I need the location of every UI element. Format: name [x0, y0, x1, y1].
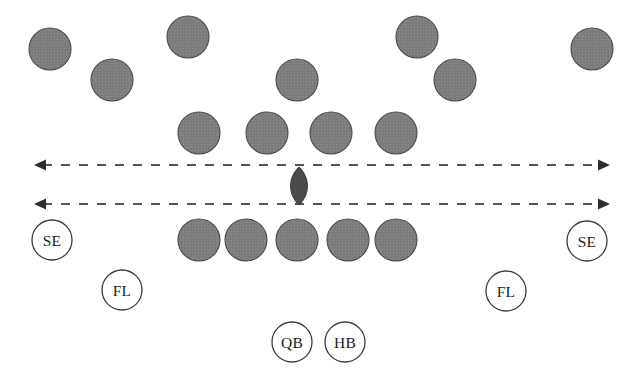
flanker-right-label: FL	[497, 283, 516, 300]
offensive-line-group	[178, 219, 417, 261]
defender-middle-backer	[276, 59, 318, 101]
defender-left-corner	[29, 28, 71, 70]
lower-neutral-zone-line	[34, 199, 610, 210]
offensive-lineman-left-guard	[225, 219, 267, 261]
defensive-lineman-1	[178, 112, 220, 154]
upper-neutral-zone-line-right-arrowhead-icon	[598, 160, 610, 171]
quarterback-label: QB	[281, 334, 303, 351]
split-end-right-label: SE	[578, 233, 597, 250]
defensive-lineman-4	[375, 112, 417, 154]
defensive-lineman-2	[246, 112, 288, 154]
flanker-left: FL	[102, 270, 142, 310]
halfback: HB	[325, 322, 365, 362]
quarterback: QB	[272, 322, 312, 362]
offensive-lineman-left-tackle	[178, 219, 220, 261]
football-group	[291, 167, 308, 205]
formation-canvas: SESEFLFLQBHB	[0, 0, 644, 389]
flanker-left-label: FL	[113, 282, 132, 299]
defender-left-safety	[91, 59, 133, 101]
offensive-lineman-right-tackle	[375, 219, 417, 261]
defender-left-backer	[167, 16, 209, 58]
defender-right-corner	[571, 28, 613, 70]
football-formation-diagram: SESEFLFLQBHB	[0, 0, 644, 389]
lower-neutral-zone-line-right-arrowhead-icon	[598, 199, 610, 210]
offensive-lineman-right-guard	[327, 219, 369, 261]
defensive-lineman-3	[310, 112, 352, 154]
flanker-right: FL	[486, 271, 526, 311]
offensive-lineman-center	[276, 219, 318, 261]
football	[291, 167, 308, 205]
split-end-left: SE	[32, 220, 72, 260]
halfback-label: HB	[334, 334, 356, 351]
labeled-players-group: SESEFLFLQBHB	[32, 220, 607, 362]
split-end-right: SE	[567, 221, 607, 261]
neutral-zone-lines	[34, 160, 610, 210]
upper-neutral-zone-line	[34, 160, 610, 171]
split-end-left-label: SE	[43, 232, 62, 249]
defender-right-safety	[434, 59, 476, 101]
defensive-players-group	[29, 16, 613, 154]
lower-neutral-zone-line-left-arrowhead-icon	[34, 199, 46, 210]
defender-right-backer	[396, 16, 438, 58]
upper-neutral-zone-line-left-arrowhead-icon	[34, 160, 46, 171]
